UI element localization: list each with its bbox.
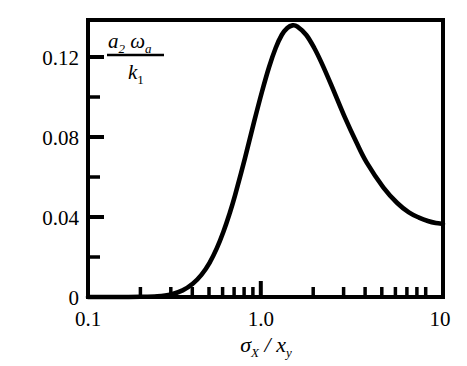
data-curve bbox=[88, 25, 443, 297]
y-tick-label-0.12: 0.12 bbox=[42, 46, 79, 70]
x-tick-label-10: 10 bbox=[430, 307, 451, 331]
plot-frame bbox=[88, 20, 443, 297]
y-tick-label-0.08: 0.08 bbox=[42, 126, 79, 150]
y-axis-label-numerator: a2 ωa bbox=[108, 29, 152, 56]
chart-svg: 0.12 0.08 0.04 0 0.1 1.0 10 a2 ωa k1 σX … bbox=[0, 0, 467, 366]
y-axis-label-denominator: k1 bbox=[128, 60, 144, 87]
y-tick-label-0.04: 0.04 bbox=[42, 206, 79, 230]
x-axis-label: σX / xy bbox=[240, 332, 292, 360]
figure-container: 0.12 0.08 0.04 0 0.1 1.0 10 a2 ωa k1 σX … bbox=[0, 0, 467, 366]
x-tick-label-1.0: 1.0 bbox=[248, 307, 274, 331]
x-tick-label-0.1: 0.1 bbox=[75, 307, 101, 331]
y-axis-label: a2 ωa k1 bbox=[107, 29, 164, 87]
